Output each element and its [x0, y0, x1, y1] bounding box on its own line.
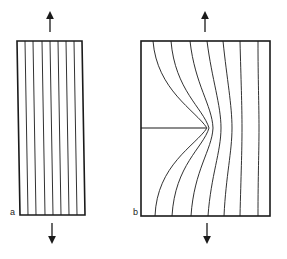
- panel-label-a: a: [10, 208, 15, 217]
- panel-a: [17, 15, 85, 240]
- panel-b: [141, 15, 270, 240]
- field-lines-a: [25, 41, 77, 215]
- panel-label-b: b: [133, 208, 138, 217]
- diagram-canvas: [0, 0, 287, 259]
